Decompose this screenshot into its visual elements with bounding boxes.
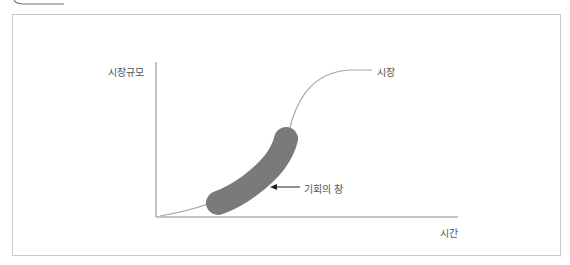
- window-of-opportunity-highlight: [218, 139, 286, 203]
- arrow-head-icon: [270, 184, 277, 190]
- y-axis-label: 시장규모: [108, 64, 144, 79]
- curve-label: 시장: [377, 64, 395, 79]
- s-curve-diagram: [0, 0, 570, 265]
- highlight-label: 기회의 창: [304, 181, 343, 196]
- top-tab-decoration: [14, 0, 64, 4]
- x-axis-label: 시간: [440, 225, 458, 240]
